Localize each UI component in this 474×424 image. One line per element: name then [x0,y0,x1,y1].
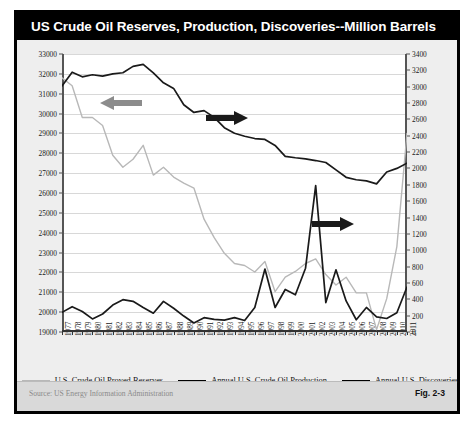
x-axis-tick-mark [336,332,337,335]
x-axis-tick-mark [275,332,276,335]
x-axis-tick-mark [285,332,286,335]
x-axis-tick-mark [62,332,63,335]
x-axis-tick-mark [103,332,104,335]
left-arrow-reserves [98,95,144,111]
x-axis-tick-mark [387,332,388,335]
arrow-glyph [312,217,354,231]
x-axis-tick-mark [245,332,246,335]
x-axis-tick-mark [113,332,114,335]
plot-region: 1900020000210002200023000240002500026000… [62,54,407,332]
x-axis-tick-mark [377,332,378,335]
x-axis-tick-mark [174,332,175,335]
x-axis-tick-mark [82,332,83,335]
x-axis-tick-mark [235,332,236,335]
chart-panel: 1900020000210002200023000240002500026000… [17,40,457,411]
x-axis-tick-mark [265,332,266,335]
x-axis-tick-mark [306,332,307,335]
x-axis-tick-label: 2011 [410,322,418,336]
x-axis-tick-mark [397,332,398,335]
x-axis-tick-mark [133,332,134,335]
x-axis-tick-mark [214,332,215,335]
figure-number: Fig. 2-3 [415,388,445,398]
x-axis-tick-mark [92,332,93,335]
x-axis-tick-mark [163,332,164,335]
source-caption: Source: US Energy Information Administra… [29,389,173,398]
x-axis-tick-mark [346,332,347,335]
figure-frame: US Crude Oil Reserves, Production, Disco… [14,10,460,414]
x-axis-tick-mark [123,332,124,335]
right-arrow-discoveries [310,216,356,232]
x-axis-tick-mark [295,332,296,335]
x-axis-tick-mark [143,332,144,335]
x-axis-tick-mark [316,332,317,335]
x-axis-tick-mark [153,332,154,335]
x-axis-tick-mark [204,332,205,335]
chart-area: 1900020000210002200023000240002500026000… [17,40,463,370]
arrow-glyph [100,96,142,110]
x-axis-tick-mark [224,332,225,335]
arrow-glyph [206,111,248,125]
x-axis-tick-mark [356,332,357,335]
x-axis-tick-mark [184,332,185,335]
x-axis-tick-mark [255,332,256,335]
figure-footer: Source: US Energy Information Administra… [17,381,457,411]
chart-title-bar: US Crude Oil Reserves, Production, Disco… [17,13,457,40]
x-axis-tick-mark [326,332,327,335]
series-line-annual-u-s-discoveries [62,186,407,323]
x-axis-tick-mark [366,332,367,335]
chart-title: US Crude Oil Reserves, Production, Disco… [31,19,436,34]
x-axis-tick-mark [407,332,408,335]
figure-container: US Crude Oil Reserves, Production, Disco… [0,0,474,424]
x-axis-tick-mark [72,332,73,335]
x-axis-tick-mark [194,332,195,335]
right-arrow-production [204,110,250,126]
